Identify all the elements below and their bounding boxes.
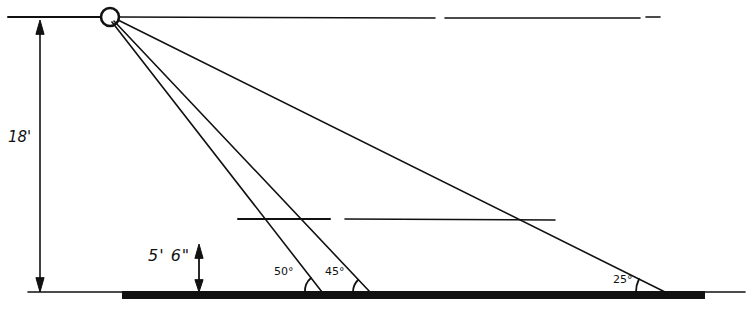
angle-label-25: 25°	[613, 273, 633, 286]
arrow-up-icon	[195, 244, 203, 258]
arrow-down-icon	[36, 278, 44, 292]
mounting-height-label: 18'	[8, 128, 31, 146]
eye-height-label: 5' 6"	[148, 246, 190, 265]
eye-level-line-right	[345, 219, 555, 220]
angle-arc-50	[305, 278, 311, 292]
angle-label-50: 50°	[274, 265, 294, 278]
floor-bar	[122, 291, 705, 299]
arrow-up-icon	[36, 20, 44, 34]
lighting-diagram	[0, 0, 755, 316]
angle-arc-25	[636, 279, 639, 292]
angle-arc-45	[353, 280, 358, 292]
angle-label-45: 45°	[325, 265, 345, 278]
ray-50-degrees	[112, 22, 322, 292]
arrow-down-icon	[195, 280, 203, 292]
mounting-height-line-right	[120, 17, 435, 18]
